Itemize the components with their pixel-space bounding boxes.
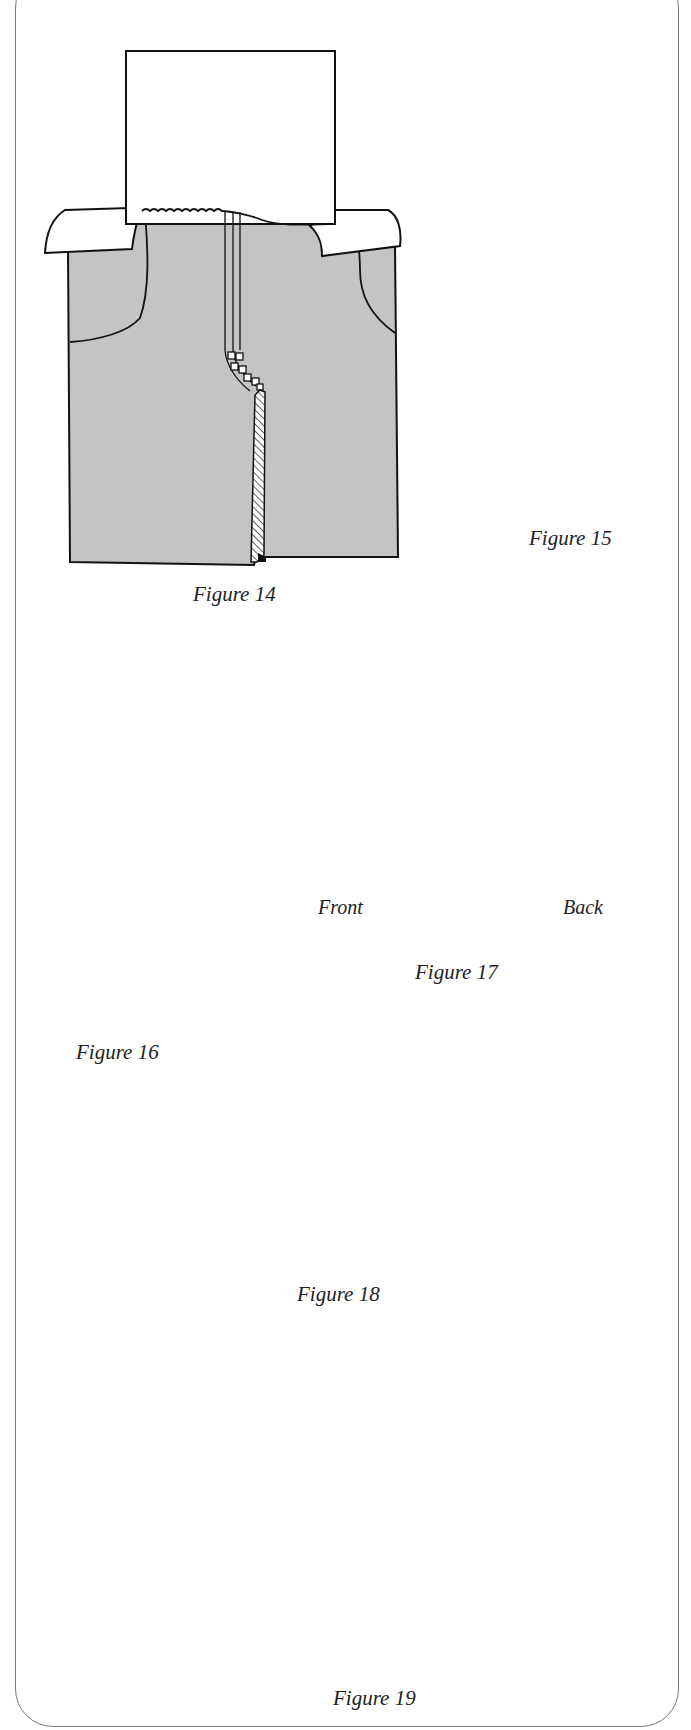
figures-canvas: [0, 0, 691, 1730]
figure-17-caption: Figure 17: [415, 960, 498, 985]
waistband-facing: [126, 51, 335, 224]
figure-17-front-label: Front: [318, 896, 363, 919]
figure-19-caption: Figure 19: [333, 1686, 416, 1711]
figure-15-caption: Figure 15: [529, 526, 612, 551]
figure-14-caption: Figure 14: [193, 582, 276, 607]
figure-16-caption: Figure 16: [76, 1040, 159, 1065]
figure-18-caption: Figure 18: [297, 1282, 380, 1307]
figure-17-back-label: Back: [563, 896, 603, 919]
figure-14-illustration: [45, 51, 401, 565]
